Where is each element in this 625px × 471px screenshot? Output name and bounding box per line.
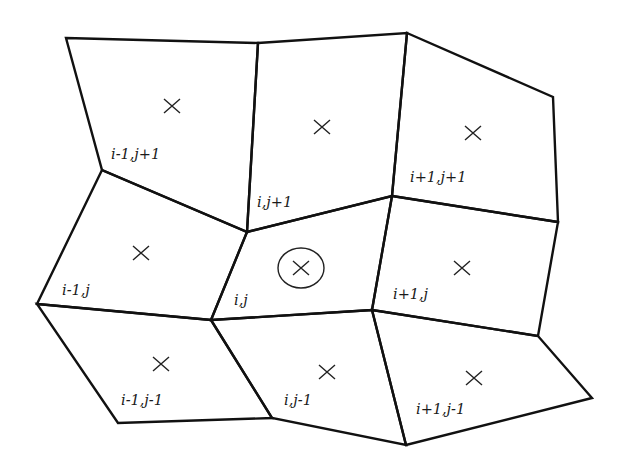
cell-labels: i-1,j+1i,j+1i+1,j+1i-1,ji,ji+1,ji-1,j-1i…: [62, 146, 467, 417]
cell-center-cross-icon: [153, 357, 169, 371]
cell-center-cross-icon: [164, 99, 180, 113]
cell-label: i,j: [234, 292, 248, 308]
cell-outline: [392, 33, 558, 222]
cell-outline: [66, 38, 258, 232]
cell-center-cross-icon: [465, 126, 481, 140]
cell-label: i+1,j+1: [410, 169, 467, 185]
cell-center-cross-icon: [293, 261, 309, 275]
cell-outline: [372, 310, 592, 445]
cell-label: i-1,j: [62, 282, 90, 298]
cell-label: i-1,j-1: [121, 392, 163, 408]
cell-center-cross-icon: [133, 246, 149, 260]
cell-centers: [133, 99, 482, 385]
cell-label: i-1,j+1: [111, 146, 160, 162]
cell-label: i,j-1: [284, 392, 312, 408]
cell-label: i,j+1: [257, 194, 292, 210]
cell-center-cross-icon: [319, 365, 335, 379]
mesh-edges: [37, 33, 592, 445]
cell-center-cross-icon: [454, 261, 470, 275]
cell-center-cross-icon: [466, 371, 482, 385]
mesh-diagram: i-1,j+1i,j+1i+1,j+1i-1,ji,ji+1,ji-1,j-1i…: [0, 0, 625, 471]
cell-center-cross-icon: [314, 120, 330, 134]
cell-label: i+1,j: [393, 286, 429, 302]
cell-label: i+1,j-1: [416, 401, 465, 417]
